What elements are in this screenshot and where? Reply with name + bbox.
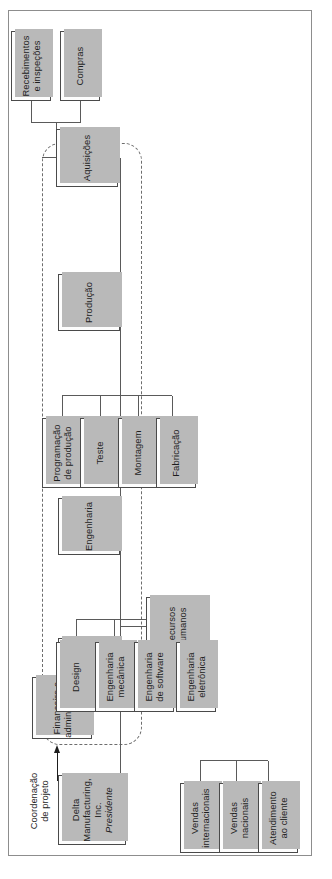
node-vendas-nacionais-label: Vendas nacionais bbox=[228, 797, 250, 838]
node-design[interactable]: Design bbox=[56, 642, 96, 712]
node-compras[interactable]: Compras bbox=[60, 31, 100, 101]
node-fabricacao-label: Fabricação bbox=[170, 429, 181, 476]
node-programacao-producao[interactable]: Programação de produção bbox=[42, 418, 82, 488]
node-atendimento-cliente-label: Atendimento ao cliente bbox=[267, 791, 289, 845]
org-chart-canvas: Delta Manufacturing, Inc. Presidente Fin… bbox=[14, 17, 318, 863]
node-president-subtitle: Presidente bbox=[103, 787, 114, 833]
node-engenharia-mecanica-label: Engenharia mecânica bbox=[104, 652, 126, 701]
node-teste-label: Teste bbox=[94, 441, 105, 464]
rotated-figure-wrapper: Delta Manufacturing, Inc. Presidente Fin… bbox=[0, 0, 332, 879]
node-president-title: Delta Manufacturing, Inc. bbox=[70, 778, 103, 841]
node-vendas-nacionais[interactable]: Vendas nacionais bbox=[219, 783, 259, 853]
node-engenharia-software[interactable]: Engenharia de software bbox=[134, 642, 174, 712]
node-recebimentos-inspecoes-label: Recebimentos e inspeções bbox=[20, 35, 42, 96]
connector-producao-bus bbox=[62, 395, 172, 396]
arrow-right-icon bbox=[54, 745, 62, 781]
node-producao[interactable]: Produção bbox=[58, 274, 120, 331]
coordination-annotation-label: Coordenação de projeto bbox=[28, 759, 51, 843]
connector-producao-child-4 bbox=[172, 396, 173, 418]
node-producao-label: Produção bbox=[83, 282, 94, 323]
connector-producao-child-3 bbox=[138, 396, 139, 418]
node-engenharia-software-label: Engenharia de software bbox=[143, 652, 165, 702]
node-recebimentos-inspecoes[interactable]: Recebimentos e inspeções bbox=[11, 31, 51, 101]
node-design-label: Design bbox=[70, 662, 81, 692]
node-montagem-label: Montagem bbox=[132, 430, 143, 475]
connector-aquisicoes-riser2 bbox=[56, 122, 80, 123]
connector-aquisicoes-riser bbox=[31, 122, 56, 123]
node-teste[interactable]: Teste bbox=[80, 418, 120, 488]
node-atendimento-cliente[interactable]: Atendimento ao cliente bbox=[258, 783, 298, 853]
connector-aquisicoes-child-2 bbox=[80, 101, 81, 123]
connector-marketing-child-2 bbox=[236, 761, 237, 783]
figure-caption: FIGURA 2.5 Estrutura funcional bbox=[321, 739, 331, 871]
node-programacao-producao-label: Programação de produção bbox=[51, 424, 73, 481]
node-fabricacao[interactable]: Fabricação bbox=[156, 418, 196, 488]
connector-drop-rh bbox=[120, 626, 146, 627]
node-engenharia[interactable]: Engenharia bbox=[58, 498, 120, 555]
node-engenharia-eletronica-label: Engenharia eletrônica bbox=[185, 652, 207, 701]
node-engenharia-eletronica[interactable]: Engenharia eletrônica bbox=[176, 642, 216, 712]
connector-producao-child-2 bbox=[100, 396, 101, 418]
node-vendas-internacionais[interactable]: Vendas internacionais bbox=[180, 783, 220, 853]
connector-marketing-bus bbox=[200, 760, 268, 761]
node-aquisicoes[interactable]: Aquisições bbox=[56, 129, 118, 187]
node-montagem[interactable]: Montagem bbox=[118, 418, 158, 488]
node-engenharia-mecanica[interactable]: Engenharia mecânica bbox=[95, 642, 135, 712]
connector-marketing-child-3 bbox=[268, 761, 269, 783]
node-president[interactable]: Delta Manufacturing, Inc. Presidente bbox=[58, 775, 126, 845]
connector-marketing-child-1 bbox=[200, 761, 201, 783]
connector-aquisicoes-bus bbox=[42, 157, 43, 158]
connector-producao-child-1 bbox=[62, 396, 63, 418]
node-vendas-internacionais-label: Vendas internacionais bbox=[189, 788, 211, 847]
connector-aquisicoes-child-1 bbox=[31, 101, 32, 123]
node-aquisicoes-label: Aquisições bbox=[81, 134, 92, 180]
node-engenharia-label: Engenharia bbox=[83, 502, 94, 551]
node-compras-label: Compras bbox=[74, 46, 85, 85]
